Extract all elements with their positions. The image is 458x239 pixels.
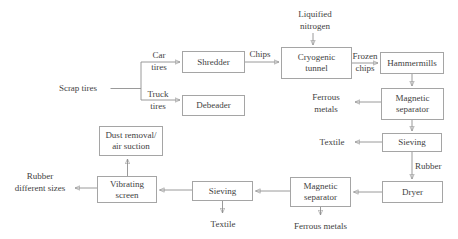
node-vibrating-screen-label-line2: screen (116, 190, 139, 201)
node-sieving-1: Sieving (382, 133, 442, 152)
scrap-tires-branch-line (111, 62, 142, 100)
node-magnetic-separator-2-label-line2: separator (304, 192, 337, 203)
node-hammermills-label: Hammermills (387, 58, 437, 69)
node-cryogenic-tunnel: Cryogenic tunnel (281, 47, 352, 79)
node-shredder-label: Shredder (197, 57, 230, 68)
label-textile-2: Textile (206, 219, 240, 231)
label-ferrous-metals-2: Ferrous metals (288, 221, 353, 233)
node-cryogenic-tunnel-label-line1: Cryogenic (298, 52, 336, 63)
node-hammermills: Hammermills (380, 52, 444, 74)
label-frozen-chips: Frozen chips (351, 51, 379, 74)
label-scrap-tires: Scrap tires (52, 83, 104, 95)
label-car-tires-line1: Car (144, 49, 174, 61)
label-truck-tires: Truck tires (143, 89, 173, 112)
node-magnetic-separator-1-label-line2: separator (396, 104, 429, 115)
label-car-tires-line2: tires (144, 61, 174, 73)
label-liquified-nitrogen-line2: nitrogen (289, 21, 341, 33)
node-sieving-2: Sieving (192, 181, 253, 201)
label-rubber-different-sizes-line2: different sizes (8, 182, 72, 194)
label-rubber: Rubber (415, 161, 447, 173)
node-magnetic-separator-2: Magnetic separator (290, 177, 351, 207)
label-truck-tires-line2: tires (143, 101, 173, 113)
node-vibrating-screen-label-line1: Vibrating (110, 179, 144, 190)
label-ferrous-metals-1-line2: metals (305, 104, 347, 116)
node-debeader: Debeader (182, 95, 245, 116)
label-truck-tires-line1: Truck (143, 89, 173, 101)
label-car-tires: Car tires (144, 49, 174, 73)
label-textile-1: Textile (316, 137, 348, 149)
label-liquified-nitrogen-line1: Liquified (289, 9, 341, 21)
node-cryogenic-tunnel-label-line2: tunnel (305, 63, 328, 74)
label-rubber-different-sizes: Rubber different sizes (8, 170, 72, 194)
node-debeader-label: Debeader (196, 100, 230, 111)
label-ferrous-metals-1-line1: Ferrous (305, 92, 347, 104)
label-chips: Chips (245, 49, 275, 61)
label-frozen-chips-line1: Frozen (351, 51, 379, 63)
node-shredder: Shredder (182, 51, 245, 73)
node-magnetic-separator-1-label-line1: Magnetic (396, 93, 430, 104)
label-rubber-different-sizes-line1: Rubber (8, 170, 72, 182)
node-sieving-2-label: Sieving (209, 186, 237, 197)
node-vibrating-screen: Vibrating screen (97, 176, 157, 203)
node-dust-removal-label-line1: Dust removal/ (105, 130, 156, 141)
node-magnetic-separator-2-label-line1: Magnetic (304, 181, 338, 192)
label-ferrous-metals-1: Ferrous metals (305, 92, 347, 115)
node-magnetic-separator-1: Magnetic separator (381, 88, 444, 120)
label-frozen-chips-line2: chips (351, 63, 379, 75)
node-dryer-label: Dryer (402, 187, 423, 198)
node-sieving-1-label: Sieving (398, 137, 426, 148)
tire-recycling-flowchart: Shredder Debeader Cryogenic tunnel Hamme… (0, 0, 458, 239)
node-dryer: Dryer (382, 181, 443, 203)
node-dust-removal-label-line2: air suction (112, 141, 150, 152)
node-dust-removal: Dust removal/ air suction (99, 126, 163, 156)
label-liquified-nitrogen: Liquified nitrogen (289, 9, 341, 32)
